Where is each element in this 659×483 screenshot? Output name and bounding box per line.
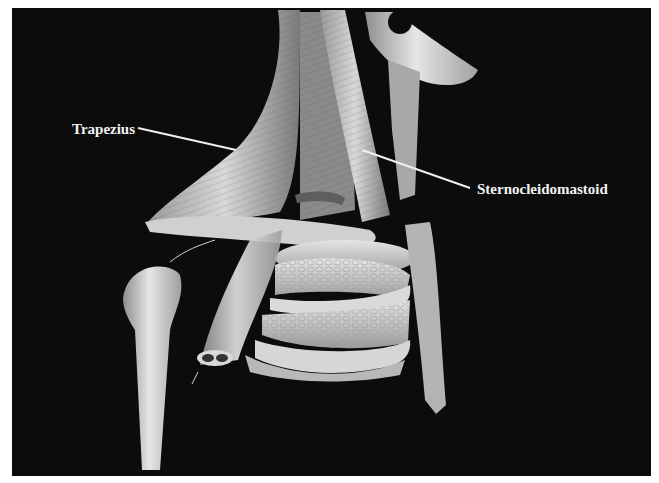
larynx bbox=[388, 60, 420, 200]
fascia-strip bbox=[405, 222, 446, 414]
neck-anatomy-illustration bbox=[12, 8, 651, 476]
mandible-bone bbox=[365, 12, 478, 85]
humerus-bone bbox=[123, 267, 181, 470]
trapezius-leader-line bbox=[138, 128, 236, 150]
trapezius-label: Trapezius bbox=[72, 121, 135, 137]
illustration-frame bbox=[12, 8, 651, 476]
sternocleidomastoid-label: Sternocleidomastoid bbox=[477, 181, 608, 197]
